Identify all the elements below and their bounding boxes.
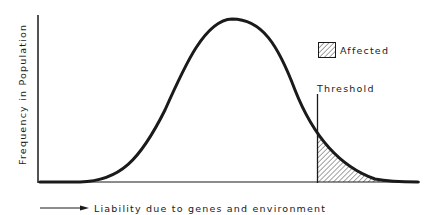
legend: Affected xyxy=(319,43,390,58)
affected-area xyxy=(38,19,418,182)
y-axis-label: Frequency in Population xyxy=(17,24,28,165)
x-axis-arrow-icon xyxy=(40,206,89,211)
distribution-curve xyxy=(40,19,418,182)
x-axis-label: Liability due to genes and environment xyxy=(94,203,326,214)
liability-threshold-chart: Threshold Affected Frequency in Populati… xyxy=(0,0,433,215)
legend-affected-label: Affected xyxy=(340,45,389,56)
threshold-label: Threshold xyxy=(316,83,375,94)
legend-affected-swatch xyxy=(319,43,336,58)
